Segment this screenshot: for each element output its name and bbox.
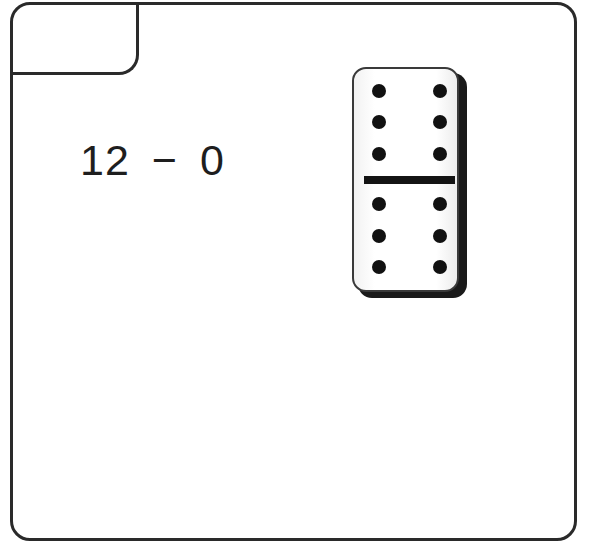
- pip-icon: [372, 115, 386, 129]
- pip-icon: [433, 84, 447, 98]
- pip-icon: [433, 229, 447, 243]
- card-frame: [10, 2, 577, 541]
- pip-icon: [372, 147, 386, 161]
- pip-icon: [372, 84, 386, 98]
- pip-icon: [372, 260, 386, 274]
- pip-icon: [433, 147, 447, 161]
- pip-icon: [372, 197, 386, 211]
- corner-tab: [13, 5, 139, 75]
- subtraction-expression: 12−0: [80, 139, 225, 182]
- domino-face: [352, 67, 459, 292]
- pip-icon: [433, 197, 447, 211]
- domino-divider: [364, 176, 455, 184]
- minuend: 12: [80, 139, 130, 182]
- minus-sign: −: [152, 139, 178, 182]
- subtrahend: 0: [200, 139, 225, 182]
- pip-icon: [433, 115, 447, 129]
- pip-icon: [433, 260, 447, 274]
- domino-tile: [352, 67, 464, 298]
- pip-icon: [372, 229, 386, 243]
